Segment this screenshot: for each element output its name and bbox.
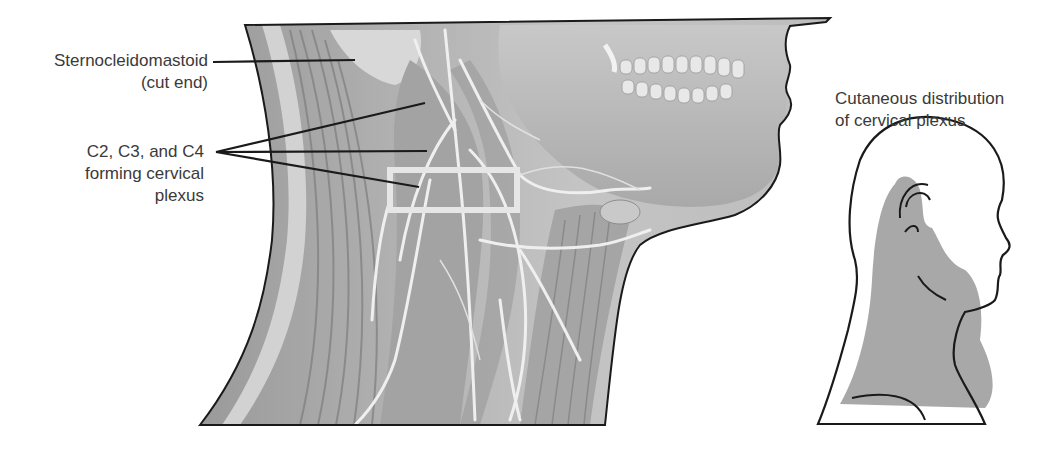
cutaneous-distribution-label: Cutaneous distribution of cervical plexu… (835, 88, 1004, 132)
sternocleidomastoid-label-line2: (cut end) (0, 72, 208, 94)
sternocleidomastoid-label: Sternocleidomastoid (cut end) (0, 50, 208, 94)
cutaneous-distribution-inset (818, 117, 1010, 424)
cervical-plexus-label-line3: plexus (0, 185, 204, 207)
cervical-plexus-label: C2, C3, and C4 forming cervical plexus (0, 141, 204, 207)
cutaneous-label-line2: of cervical plexus (835, 110, 1004, 132)
cervical-plexus-label-line2: forming cervical (0, 163, 204, 185)
cutaneous-label-line1: Cutaneous distribution (835, 88, 1004, 110)
sternocleidomastoid-label-line1: Sternocleidomastoid (0, 50, 208, 72)
neck-dissection-illustration (200, 18, 830, 425)
c3-leader (216, 151, 427, 152)
cervical-plexus-label-line1: C2, C3, and C4 (0, 141, 204, 163)
cutaneous-shaded-region (840, 177, 993, 408)
